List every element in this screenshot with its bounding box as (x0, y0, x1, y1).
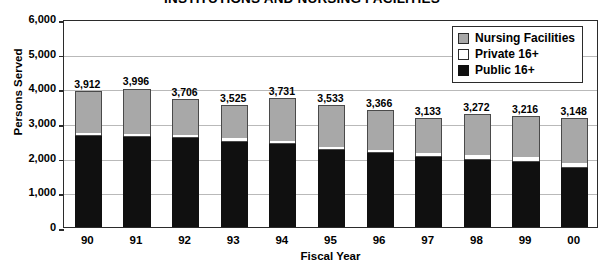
bar-value-label: 3,731 (258, 85, 307, 97)
bar-value-label: 3,996 (112, 75, 161, 87)
bar-segment-nursing-facilities (269, 98, 296, 141)
chart-title: INSTITUTIONS AND NURSING FACILITIES (0, 0, 604, 6)
y-axis-tick-label: 2,000 (10, 153, 56, 164)
bar-segment-public-16-plus (269, 143, 296, 227)
x-axis-title: Fiscal Year (63, 250, 598, 262)
y-axis-tick-label: 3,000 (10, 118, 56, 129)
legend-item-label: Public 16+ (475, 63, 535, 77)
bar-segment-public-16-plus (221, 141, 248, 227)
bar-segment-public-16-plus (464, 159, 491, 227)
bar-segment-nursing-facilities (172, 99, 199, 135)
y-axis-tick-label: 1,000 (10, 187, 56, 198)
bar-segment-nursing-facilities (415, 118, 442, 152)
bar-94 (269, 98, 296, 227)
legend-swatch-icon (458, 33, 469, 44)
bar-value-label: 3,216 (501, 103, 550, 115)
bar-chart-figure: INSTITUTIONS AND NURSING FACILITIES Pers… (0, 0, 604, 266)
bar-value-label: 3,272 (452, 101, 501, 113)
y-axis-tick-mark (59, 229, 64, 231)
bar-segment-nursing-facilities (512, 116, 539, 158)
bar-value-label: 3,133 (403, 105, 452, 117)
bar-segment-public-16-plus (123, 136, 150, 227)
bar-00 (561, 118, 588, 227)
bar-segment-public-16-plus (415, 156, 442, 227)
x-axis-tick-label-95: 95 (306, 234, 355, 246)
bar-segment-nursing-facilities (318, 105, 345, 147)
bar-segment-nursing-facilities (75, 91, 102, 133)
y-axis-tick-label: 6,000 (10, 14, 56, 25)
bar-91 (123, 89, 150, 228)
bar-92 (172, 99, 199, 227)
bar-93 (221, 105, 248, 227)
bar-99 (512, 116, 539, 227)
x-axis-tick-label-00: 00 (549, 234, 598, 246)
bar-96 (367, 110, 394, 227)
x-axis-tick-label-91: 91 (112, 234, 161, 246)
legend-item: Nursing Facilities (458, 30, 575, 46)
legend-item: Private 16+ (458, 46, 575, 62)
x-axis-tick-label-97: 97 (403, 234, 452, 246)
bar-segment-nursing-facilities (221, 105, 248, 138)
legend-item-label: Private 16+ (475, 47, 539, 61)
bar-segment-nursing-facilities (367, 110, 394, 149)
legend-item: Public 16+ (458, 62, 575, 78)
x-axis-tick-label-94: 94 (258, 234, 307, 246)
bar-value-label: 3,366 (355, 97, 404, 109)
bar-segment-public-16-plus (75, 135, 102, 227)
bar-segment-public-16-plus (561, 167, 588, 227)
bar-value-label: 3,533 (306, 92, 355, 104)
y-axis-tick-labels: 6,0005,0004,0003,0002,0001,0000 (8, 0, 56, 266)
bar-segment-public-16-plus (367, 152, 394, 227)
bar-value-label: 3,148 (549, 105, 598, 117)
bar-97 (415, 118, 442, 227)
bar-90 (75, 91, 102, 227)
x-axis-tick-label-93: 93 (209, 234, 258, 246)
x-axis-tick-label-96: 96 (355, 234, 404, 246)
bar-segment-nursing-facilities (123, 89, 150, 134)
bar-value-label: 3,706 (160, 86, 209, 98)
bar-95 (318, 105, 345, 227)
x-axis-tick-label-98: 98 (452, 234, 501, 246)
y-axis-tick-label: 0 (10, 222, 56, 233)
bar-segment-public-16-plus (172, 137, 199, 227)
chart-legend: Nursing FacilitiesPrivate 16+Public 16+ (452, 26, 583, 83)
bar-segment-public-16-plus (318, 149, 345, 227)
bar-value-label: 3,912 (63, 78, 112, 90)
bar-segment-nursing-facilities (561, 118, 588, 163)
bar-segment-nursing-facilities (464, 114, 491, 156)
bar-98 (464, 114, 491, 227)
bar-segment-public-16-plus (512, 161, 539, 227)
y-axis-tick-label: 5,000 (10, 49, 56, 60)
x-axis-tick-label-92: 92 (160, 234, 209, 246)
x-axis-tick-label-99: 99 (501, 234, 550, 246)
legend-swatch-icon (458, 49, 469, 60)
bar-value-label: 3,525 (209, 92, 258, 104)
legend-item-label: Nursing Facilities (475, 31, 575, 45)
x-axis-tick-label-90: 90 (63, 234, 112, 246)
y-axis-tick-label: 4,000 (10, 83, 56, 94)
legend-swatch-icon (458, 65, 469, 76)
